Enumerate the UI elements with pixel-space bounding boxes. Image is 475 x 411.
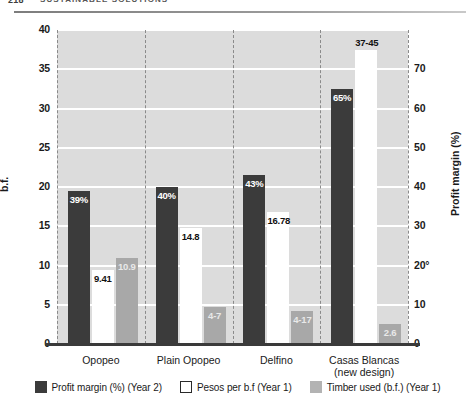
page-running-title: SUSTAINABLE SOLUTIONS — [40, 0, 168, 4]
y-axis-right-tick-label: 50 — [414, 141, 444, 153]
y-axis-left-tick-label: 35 — [24, 62, 50, 74]
y-axis-left-tick-label: 40 — [24, 23, 50, 35]
grouped-bar-chart-figure: 39%9.4110.940%14.84-743%16.784-1765%37-4… — [0, 14, 475, 411]
page-folio-number: 218 — [8, 0, 24, 5]
bar-value-label: 40% — [156, 190, 178, 201]
legend-label: Profit margin (%) (Year 2) — [52, 382, 162, 393]
y-axis-right-tick-label: 30 — [414, 219, 444, 231]
y-axis-right-tick-label: 20° — [414, 259, 444, 271]
bar: 39% — [68, 191, 90, 344]
y-axis-left-tick-label: 20 — [24, 180, 50, 192]
bar-value-label: 4-7 — [204, 310, 226, 321]
group-separator — [57, 30, 58, 344]
bar: 65% — [331, 89, 353, 344]
bar: 14.8 — [180, 228, 202, 344]
bar-value-label: 39% — [68, 194, 90, 205]
y-axis-left-tick-label: 30 — [24, 102, 50, 114]
bar: 40% — [156, 187, 178, 344]
legend-item[interactable]: Timber used (b.f.) (Year 1) — [310, 381, 441, 393]
y-axis-left-tick-label: 10 — [24, 259, 50, 271]
y-axis-left-tick-label: 5 — [24, 298, 50, 310]
y-axis-right-tick-label: 40 — [414, 180, 444, 192]
bar: 10.9 — [116, 258, 138, 344]
bar-value-label: 37-45 — [355, 37, 377, 48]
y-axis-right-tick-label: 60 — [414, 102, 444, 114]
bar-value-label: 9.41 — [92, 273, 114, 284]
group-separator — [320, 30, 321, 344]
y-axis-right-tick-label: 70 — [414, 62, 444, 74]
legend-label: Pesos per b.f (Year 1) — [197, 382, 292, 393]
group-separator — [233, 30, 234, 344]
chart-legend: Profit margin (%) (Year 2)Pesos per b.f … — [0, 376, 475, 398]
bar: 9.41 — [92, 270, 114, 344]
bar: 2.6 — [379, 324, 401, 344]
bar-value-label: 43% — [243, 178, 265, 189]
bar: 43% — [243, 175, 265, 344]
x-axis-category-label: Casas Blancas(new design) — [320, 354, 408, 378]
group-separator — [145, 30, 146, 344]
bar-value-label: 16.78 — [267, 215, 289, 226]
bar-value-label: 4-17 — [291, 314, 313, 325]
bar: 4-7 — [204, 307, 226, 344]
x-axis-category-label: Plain Opopeo — [145, 354, 233, 366]
bar: 4-17 — [291, 311, 313, 344]
y-axis-left-title: b.f. — [0, 177, 10, 192]
x-axis-category-label: Opopeo — [57, 354, 145, 366]
bar-value-label: 65% — [331, 92, 353, 103]
x-axis-baseline — [45, 343, 420, 346]
y-axis-right-tick-label: 10 — [414, 298, 444, 310]
bar-value-label: 10.9 — [116, 261, 138, 272]
legend-item[interactable]: Profit margin (%) (Year 2) — [35, 381, 162, 393]
x-axis-category-label: Delfino — [233, 354, 321, 366]
legend-label: Timber used (b.f.) (Year 1) — [327, 382, 441, 393]
legend-swatch-white — [180, 381, 192, 393]
bar-value-label: 14.8 — [180, 231, 202, 242]
bar: 16.78 — [267, 212, 289, 344]
bar-value-label: 2.6 — [379, 327, 401, 338]
y-axis-left-tick-label: 25 — [24, 141, 50, 153]
legend-swatch-dark — [35, 381, 47, 393]
header-rule-divider — [14, 11, 466, 13]
group-separator — [408, 30, 409, 344]
legend-item[interactable]: Pesos per b.f (Year 1) — [180, 381, 292, 393]
legend-swatch-gray — [310, 381, 322, 393]
bar: 37-45 — [355, 50, 377, 344]
y-axis-right-title: Profit margin (%) — [449, 131, 461, 216]
y-axis-left-tick-label: 15 — [24, 219, 50, 231]
